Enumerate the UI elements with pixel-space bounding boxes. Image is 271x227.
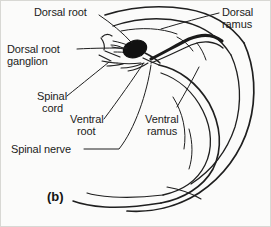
- label-spinal-cord-line2: cord: [42, 102, 63, 115]
- label-dorsal-ramus-line1: Dorsal: [222, 6, 253, 19]
- leader-dorsal-root-ganglion: [77, 48, 127, 49]
- label-spinal-cord-line1: Spinal: [37, 90, 67, 103]
- leader-dorsal-ramus: [161, 13, 219, 29]
- spinal-cord-shape: [99, 35, 123, 66]
- label-ventral-root-line2: root: [77, 125, 96, 138]
- label-dorsal-root-ganglion-line2: ganglion: [7, 55, 48, 68]
- label-dorsal-root: Dorsal root: [34, 6, 87, 19]
- dorsal-root-ganglion-shape: [121, 37, 149, 61]
- dorsal-ramus-shape: [151, 35, 223, 63]
- label-ventral-ramus-line1: Ventral: [145, 113, 179, 126]
- leader-ventral-root: [104, 64, 143, 119]
- label-ventral-ramus-line2: ramus: [147, 125, 177, 138]
- figure-caption: (b): [47, 189, 64, 204]
- label-spinal-nerve: Spinal nerve: [11, 143, 71, 156]
- leader-dorsal-root: [99, 15, 132, 43]
- figure-panel-b: Dorsal root Dorsal ramus Dorsal root gan…: [0, 0, 271, 227]
- label-ventral-root-line1: Ventral: [70, 113, 104, 126]
- label-dorsal-root-ganglion-line1: Dorsal root: [7, 43, 60, 56]
- leader-spinal-cord: [67, 62, 109, 96]
- label-dorsal-ramus-line2: ramus: [222, 18, 252, 31]
